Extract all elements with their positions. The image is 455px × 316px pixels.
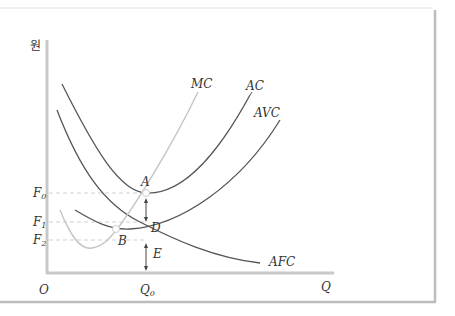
origin-label: O — [39, 283, 49, 297]
diagram-canvas: 원 O Q Q0 F0 F1 F2 MC AC AVC AFC A B D E — [0, 0, 455, 316]
y-axis-label: 원 — [30, 39, 41, 53]
cost-curves-diagram: 원 O Q Q0 F0 F1 F2 MC AC AVC AFC A B D E — [0, 0, 455, 316]
afc-label: AFC — [268, 255, 295, 269]
point-b-label: B — [117, 234, 127, 248]
point-a-marker — [143, 190, 150, 197]
mc-label: MC — [190, 77, 212, 91]
ac-label: AC — [245, 79, 264, 93]
arrowhead-down-e — [144, 266, 148, 271]
q0-label: Q0 — [140, 283, 155, 298]
mc-curve — [60, 92, 198, 248]
point-d-label: D — [150, 221, 161, 235]
point-b-marker — [113, 226, 120, 233]
f2-label: F2 — [32, 233, 46, 248]
avc-label: AVC — [253, 106, 280, 120]
arrowhead-up-ad — [144, 198, 148, 203]
point-e-label: E — [152, 247, 162, 261]
point-a-label: A — [140, 175, 150, 189]
avc-curve — [75, 120, 280, 229]
x-axis-label: Q — [321, 280, 331, 294]
f1-label: F1 — [32, 215, 46, 230]
arrowhead-up-e — [144, 243, 148, 248]
f0-label: F0 — [32, 186, 46, 201]
arrowhead-down-ad — [144, 217, 148, 222]
